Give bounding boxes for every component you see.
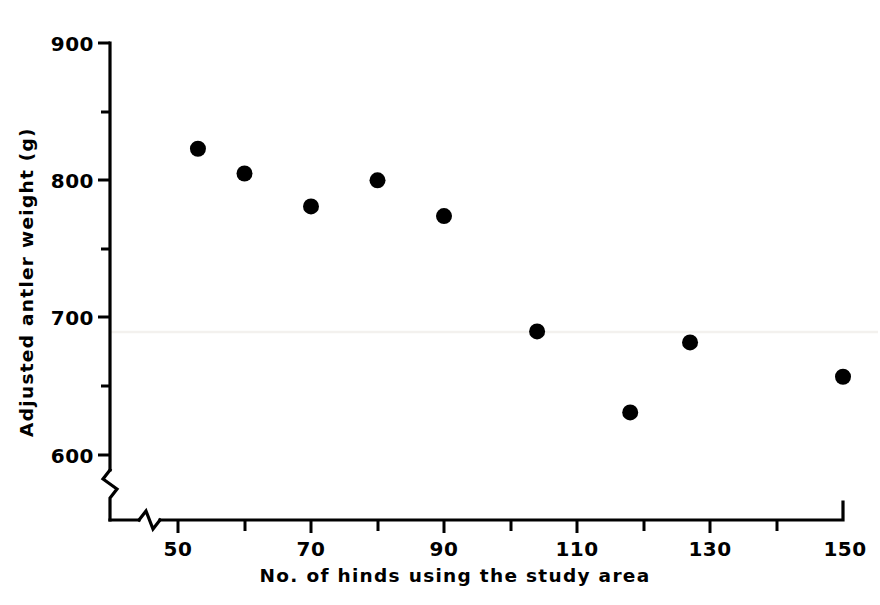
data-point: [303, 198, 319, 214]
data-point: [237, 165, 253, 181]
plot-canvas: 900 800 700 600 50 70 90 110 130 150 Adj…: [0, 0, 880, 605]
y-ticklabel-800: 800: [51, 169, 94, 193]
x-axis-line: [160, 502, 843, 520]
y-ticklabel-600: 600: [51, 444, 94, 468]
y-ticklabel-900: 900: [51, 32, 94, 56]
x-ticklabel-110: 110: [555, 537, 598, 561]
x-ticklabel-150: 150: [823, 537, 866, 561]
x-ticklabel-70: 70: [297, 537, 326, 561]
data-point: [682, 334, 698, 350]
x-ticklabel-130: 130: [688, 537, 731, 561]
data-point: [190, 141, 206, 157]
data-point: [622, 404, 638, 420]
x-ticklabel-50: 50: [164, 537, 193, 561]
data-points-group: [190, 141, 851, 421]
data-point: [436, 208, 452, 224]
x-axis-title: No. of hinds using the study area: [260, 565, 651, 586]
data-point: [529, 323, 545, 339]
data-point: [835, 369, 851, 385]
x-axis-break-symbol: [139, 511, 160, 529]
x-ticklabel-90: 90: [430, 537, 459, 561]
y-ticklabel-700: 700: [51, 306, 94, 330]
scatter-plot-figure: 900 800 700 600 50 70 90 110 130 150 Adj…: [0, 0, 880, 605]
y-axis-title: Adjusted antler weight (g): [16, 127, 37, 437]
data-point: [370, 172, 386, 188]
y-axis-break-symbol: [103, 470, 117, 520]
